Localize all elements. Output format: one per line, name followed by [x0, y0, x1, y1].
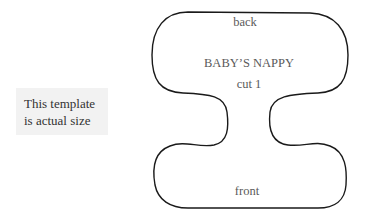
nappy-outline [0, 0, 368, 218]
label-cut: cut 1 [237, 77, 262, 92]
label-title: BABY’S NAPPY [204, 56, 294, 71]
label-back: back [233, 15, 257, 30]
label-front: front [235, 184, 259, 199]
